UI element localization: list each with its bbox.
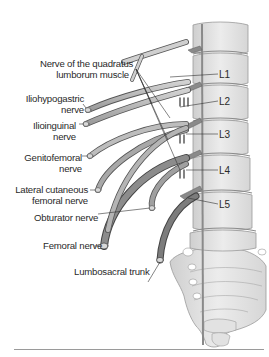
label-vertebra-l1: L1 (219, 69, 230, 80)
label-lumbosacral-trunk: Lumbosacral trunk (74, 266, 150, 277)
label-line: femoral nerve (0, 195, 88, 206)
label-iliohypogastric-nerve: Iliohypogastric nerve (8, 93, 84, 115)
label-vertebra-l4: L4 (219, 165, 230, 176)
label-line: lumborum muscle (40, 69, 129, 80)
label-line: Nerve of the quadratus (40, 58, 129, 69)
label-line: Iliohypogastric (8, 93, 84, 104)
label-line: Ilioinguinal (6, 120, 76, 131)
lumbar-plexus-figure: Nerve of the quadratus lumborum muscle I… (0, 0, 269, 357)
bottom-divider (14, 349, 264, 350)
label-line: Obturator nerve (34, 212, 98, 223)
sacrum (170, 248, 266, 347)
anatomy-illustration (0, 0, 269, 357)
label-line: nerve (8, 104, 84, 115)
label-line: Femoral nerve (43, 240, 102, 251)
label-ilioinguinal-nerve: Ilioinguinal nerve (6, 120, 76, 142)
label-obturator-nerve: Obturator nerve (34, 212, 98, 223)
label-vertebra-l3: L3 (219, 129, 230, 140)
label-line: Lateral cutaneous (0, 184, 88, 195)
label-line: nerve (6, 131, 76, 142)
label-vertebra-l2: L2 (219, 96, 230, 107)
label-line: Genitofemoral (6, 152, 82, 163)
label-line: nerve (6, 163, 82, 174)
label-line: Lumbosacral trunk (74, 266, 150, 277)
label-lateral-cutaneous-femoral-nerve: Lateral cutaneous femoral nerve (0, 184, 88, 206)
label-genitofemoral-nerve: Genitofemoral nerve (6, 152, 82, 174)
label-vertebra-l5: L5 (219, 199, 230, 210)
label-femoral-nerve: Femoral nerve (43, 240, 102, 251)
label-quadratus-lumborum-nerve: Nerve of the quadratus lumborum muscle (40, 58, 129, 80)
